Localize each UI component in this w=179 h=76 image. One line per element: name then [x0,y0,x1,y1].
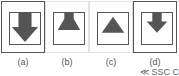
arrow-down-icon [10,13,40,44]
figure-panel-b [45,1,89,53]
watermark: ≪ SSC CGL [140,67,179,76]
arrow-down-small-icon [142,13,172,44]
panel-label-a: (a) [1,57,45,67]
panel-label-b: (b) [45,57,89,67]
figure-panel-d [133,1,177,53]
inner-square [9,12,41,45]
panel-label-d: (d) [133,57,177,67]
triangle-up-icon [98,13,128,44]
figure-panel-a [1,1,45,53]
inner-square [97,12,129,45]
figure-panel-c [89,1,133,53]
funnel-triangle-up-icon [54,13,84,44]
panel-label-c: (c) [89,57,133,67]
inner-square [141,12,173,45]
inner-square [53,12,85,45]
